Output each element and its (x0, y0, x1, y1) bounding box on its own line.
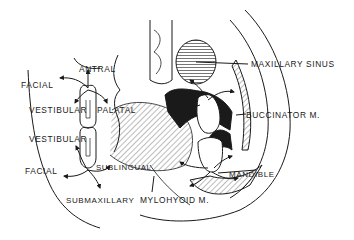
label-sublingual: SUBLINGUAL (96, 164, 151, 172)
label-buccinator: BUCCINATOR M. (246, 111, 320, 119)
label-vestibular-upper: VESTIBULAR (29, 106, 87, 114)
label-mylohyoid: MYLOHYOID M. (140, 196, 209, 204)
label-palatal: PALATAL (97, 106, 136, 114)
label-submaxillary: SUBMAXILLARY (66, 197, 134, 205)
label-mandible: MANDIBLE (229, 171, 275, 179)
label-maxillary-sinus: MAXILLARY SINUS (251, 60, 335, 68)
label-antral: ANTRAL (79, 65, 116, 73)
label-vestibular-lower: VESTIBULAR (29, 135, 87, 143)
lower-molar (198, 138, 223, 173)
label-facial-lower: FACIAL (25, 167, 57, 175)
leader-mylohyoid (152, 176, 154, 192)
label-facial-upper: FACIAL (21, 81, 53, 89)
nasal-cavity (150, 20, 172, 84)
